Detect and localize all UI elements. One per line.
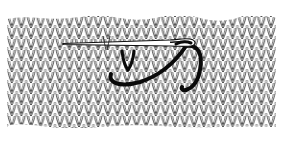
- knit-fabric: [7, 16, 277, 128]
- illustration: Duplicate stitch on stockinette knit fab…: [0, 0, 288, 143]
